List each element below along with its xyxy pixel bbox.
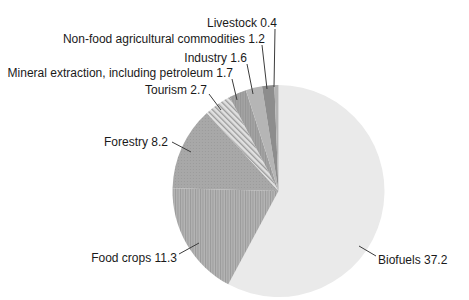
- slice-label-industry: Industry 1.6: [184, 51, 247, 65]
- slice-label-food-crops: Food crops 11.3: [91, 251, 177, 265]
- slice-label-biofuels: Biofuels 37.2: [378, 253, 447, 267]
- slice-label-livestock: Livestock 0.4: [207, 16, 277, 30]
- slice-label-mineral-extraction: Mineral extraction, including petroleum …: [8, 66, 233, 80]
- pie-chart-figure: Livestock 0.4 Non-food agricultural comm…: [0, 0, 469, 300]
- slice-label-forestry: Forestry 8.2: [104, 135, 168, 149]
- leader-line-livestock: [274, 29, 275, 87]
- leader-line-non-food-agricultural-commodities: [262, 45, 267, 89]
- slice-label-tourism: Tourism 2.7: [145, 83, 207, 97]
- slice-label-non-food-agricultural-commodities: Non-food agricultural commodities 1.2: [63, 32, 265, 46]
